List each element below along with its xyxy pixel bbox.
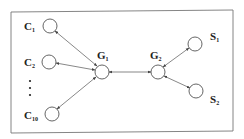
network-diagram: C1 C2 C10 G1 G2 S1 S2 (0, 0, 244, 139)
edge-g1-c1 (55, 31, 97, 66)
node-s2 (189, 84, 203, 98)
node-c10 (45, 107, 59, 121)
label-s1: S1 (210, 30, 219, 43)
ellipsis-dot (29, 87, 31, 89)
ellipsis-dot (29, 94, 31, 96)
ellipsis-dot (29, 80, 31, 82)
label-g2: G2 (150, 49, 162, 62)
label-c1: C1 (24, 20, 35, 33)
node-s1 (188, 37, 202, 51)
edge-g2-s2 (164, 76, 190, 88)
node-g1 (95, 65, 109, 79)
label-c10: C10 (24, 109, 38, 122)
edge-g2-s1 (163, 48, 189, 67)
label-s2: S2 (210, 93, 219, 106)
node-g2 (151, 65, 165, 79)
label-g1: G1 (97, 49, 109, 62)
edge-g1-c10 (57, 77, 96, 109)
edge-g1-c2 (56, 63, 95, 70)
node-c1 (43, 19, 57, 33)
node-c2 (42, 55, 56, 69)
label-c2: C2 (24, 56, 35, 69)
